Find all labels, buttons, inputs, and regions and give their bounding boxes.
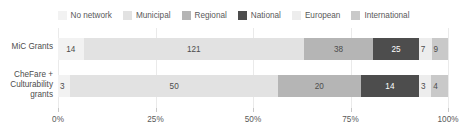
- bar-segment-no-network[interactable]: 3: [58, 75, 70, 97]
- legend-item-label: European: [305, 11, 341, 20]
- bar-segment-value: 9: [434, 45, 439, 54]
- bar-segment-value: 20: [315, 82, 324, 91]
- bar-segment-regional[interactable]: 20: [278, 75, 361, 97]
- legend-swatch-icon: [292, 11, 301, 20]
- x-axis-tick-label: 0%: [52, 115, 64, 125]
- bar-segment-value: 3: [421, 82, 426, 91]
- legend-swatch-icon: [351, 11, 360, 20]
- bar-row-chefare-culturability-grants: 350201434: [58, 75, 448, 97]
- bar-segment-value: 14: [385, 82, 394, 91]
- bar-row-mic-grants: 14121382579: [58, 38, 448, 60]
- x-axis-tick-label: 100%: [438, 115, 459, 125]
- bar-segment-municipal[interactable]: 121: [84, 38, 305, 60]
- y-axis-label-chefare-culturability-grants: CheFare + Culturability grants: [0, 70, 53, 100]
- chart-legend: No networkMunicipalRegionalNationalEurop…: [0, 5, 467, 25]
- bar-segment-municipal[interactable]: 50: [70, 75, 277, 97]
- bar-segment-no-network[interactable]: 14: [58, 38, 84, 60]
- legend-item-no-network[interactable]: No network: [58, 11, 112, 20]
- x-axis-tick-mark: [448, 108, 449, 112]
- legend-swatch-icon: [182, 11, 191, 20]
- gridline-100pct: [448, 28, 449, 108]
- legend-swatch-icon: [58, 11, 67, 20]
- bar-segment-value: 50: [170, 82, 179, 91]
- legend-item-municipal[interactable]: Municipal: [123, 11, 171, 20]
- bar-segment-european[interactable]: 3: [419, 75, 431, 97]
- bar-segment-national[interactable]: 14: [361, 75, 419, 97]
- bar-segment-value: 25: [391, 45, 400, 54]
- bar-segment-value: 4: [433, 82, 438, 91]
- legend-item-european[interactable]: European: [292, 11, 341, 20]
- x-axis: 0%25%50%75%100%: [58, 108, 448, 134]
- x-axis-tick-mark: [351, 108, 352, 112]
- legend-item-regional[interactable]: Regional: [182, 11, 227, 20]
- bar-segment-international[interactable]: 9: [432, 38, 448, 60]
- bar-segment-national[interactable]: 25: [373, 38, 419, 60]
- bar-segment-european[interactable]: 7: [419, 38, 432, 60]
- legend-item-label: Regional: [195, 11, 227, 20]
- x-axis-tick-mark: [156, 108, 157, 112]
- legend-item-national[interactable]: National: [238, 11, 281, 20]
- y-axis-label-mic-grants: MiC Grants: [0, 42, 53, 52]
- bar-segment-value: 38: [334, 45, 343, 54]
- x-axis-tick-label: 25%: [147, 115, 163, 125]
- bar-segment-value: 3: [60, 82, 65, 91]
- legend-item-label: Municipal: [136, 11, 171, 20]
- bar-segment-regional[interactable]: 38: [304, 38, 373, 60]
- bar-segment-international[interactable]: 4: [431, 75, 448, 97]
- x-axis-tick-label: 50%: [245, 115, 261, 125]
- bar-segment-value: 14: [66, 45, 75, 54]
- x-axis-tick-label: 75%: [342, 115, 358, 125]
- legend-item-label: International: [364, 11, 409, 20]
- legend-item-international[interactable]: International: [351, 11, 409, 20]
- x-axis-tick-mark: [58, 108, 59, 112]
- x-axis-tick-mark: [253, 108, 254, 112]
- bar-segment-value: 121: [187, 45, 201, 54]
- legend-item-label: National: [251, 11, 281, 20]
- plot-area: 14121382579 350201434: [58, 28, 448, 108]
- legend-swatch-icon: [123, 11, 132, 20]
- stacked-bar-chart: No networkMunicipalRegionalNationalEurop…: [0, 0, 467, 134]
- bar-segment-value: 7: [421, 45, 426, 54]
- legend-swatch-icon: [238, 11, 247, 20]
- legend-item-label: No network: [71, 11, 112, 20]
